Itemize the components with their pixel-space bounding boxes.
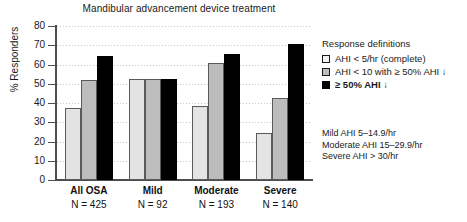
y-axis-tick-label: 70 bbox=[0, 40, 45, 50]
y-axis-tick-mark bbox=[48, 122, 56, 123]
y-axis-tick-value: 20 bbox=[21, 137, 45, 147]
legend-item-3: ≥ 50% AHI ↓ bbox=[322, 79, 467, 90]
bar-all-osa-series-3 bbox=[97, 56, 113, 180]
bar-all-osa-series-2 bbox=[81, 80, 97, 180]
legend-item-label: ≥ 50% AHI ↓ bbox=[335, 79, 388, 90]
bar-all-osa-series-1 bbox=[65, 108, 81, 180]
x-axis-category-label: Severe bbox=[240, 185, 320, 197]
y-axis-tick-label: 50 bbox=[0, 79, 45, 89]
bar-mild-series-2 bbox=[145, 79, 161, 180]
y-axis-tick-value: 40 bbox=[21, 98, 45, 108]
bar-moderate-series-3 bbox=[224, 54, 240, 180]
severity-note-line: Severe AHI > 30/hr bbox=[322, 151, 467, 163]
y-axis-tick-mark bbox=[48, 26, 56, 27]
bar-severe-series-2 bbox=[272, 98, 288, 180]
bar-mild-series-3 bbox=[161, 79, 177, 180]
y-axis-tick-mark bbox=[48, 84, 56, 85]
y-axis-tick-mark bbox=[48, 142, 56, 143]
y-axis-tick-mark bbox=[48, 161, 56, 162]
severity-definitions-note: Mild AHI 5–14.9/hrModerate AHI 15–29.9/h… bbox=[322, 128, 467, 163]
severity-note-line: Mild AHI 5–14.9/hr bbox=[322, 128, 467, 140]
legend-item-1: AHI < 5/hr (complete) bbox=[322, 53, 467, 64]
black-swatch-icon bbox=[322, 81, 330, 89]
light-gray-swatch-icon bbox=[322, 55, 330, 63]
y-axis-tick-mark bbox=[48, 45, 56, 46]
bar-severe-series-1 bbox=[256, 133, 272, 180]
legend-item-label: AHI < 5/hr (complete) bbox=[335, 53, 426, 64]
y-axis-tick-label: 0 bbox=[0, 175, 45, 185]
bar-mild-series-1 bbox=[129, 79, 145, 180]
y-axis-tick-value: 80 bbox=[21, 21, 45, 31]
gridline bbox=[57, 45, 312, 46]
legend-items: AHI < 5/hr (complete)AHI < 10 with ≥ 50%… bbox=[322, 53, 467, 90]
bar-chart-figure: Mandibular advancement device treatment … bbox=[0, 0, 467, 222]
y-axis-tick-label: 80 bbox=[0, 21, 45, 31]
bar-moderate-series-1 bbox=[192, 106, 208, 180]
y-axis-tick-label: 60 bbox=[0, 60, 45, 70]
legend: Response definitions AHI < 5/hr (complet… bbox=[322, 38, 467, 92]
x-axis-sample-size: N = 140 bbox=[240, 199, 320, 211]
medium-gray-swatch-icon bbox=[322, 68, 330, 76]
gridline bbox=[57, 26, 312, 27]
legend-item-2: AHI < 10 with ≥ 50% AHI ↓ bbox=[322, 66, 467, 77]
y-axis-tick-mark bbox=[48, 103, 56, 104]
y-axis-tick-value: 50 bbox=[21, 79, 45, 89]
bar-moderate-series-2 bbox=[208, 63, 224, 180]
gridline bbox=[57, 65, 312, 66]
y-axis-tick-value: 60 bbox=[21, 60, 45, 70]
plot-area bbox=[57, 26, 312, 180]
x-axis-group-severe: SevereN = 140 bbox=[240, 185, 320, 211]
y-axis-tick-label: 40 bbox=[0, 98, 45, 108]
y-axis-tick-label: 20 bbox=[0, 137, 45, 147]
y-axis-tick-value: 10 bbox=[21, 156, 45, 166]
y-axis-tick-label: 10 bbox=[0, 156, 45, 166]
bar-severe-series-3 bbox=[288, 44, 304, 180]
y-axis-tick-value: 70 bbox=[21, 40, 45, 50]
legend-item-label: AHI < 10 with ≥ 50% AHI ↓ bbox=[335, 66, 447, 77]
y-axis-tick-mark bbox=[48, 180, 56, 181]
legend-title: Response definitions bbox=[322, 38, 467, 49]
chart-title: Mandibular advancement device treatment bbox=[46, 3, 312, 14]
y-axis-tick-label: 30 bbox=[0, 117, 45, 127]
y-axis-tick-value: 0 bbox=[21, 175, 45, 185]
severity-note-line: Moderate AHI 15–29.9/hr bbox=[322, 140, 467, 152]
y-axis-tick-value: 30 bbox=[21, 117, 45, 127]
y-axis-tick-mark bbox=[48, 65, 56, 66]
